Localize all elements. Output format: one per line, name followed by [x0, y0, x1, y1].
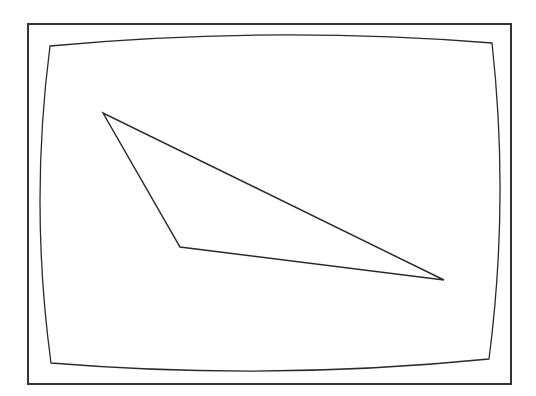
diagram-canvas	[0, 0, 536, 396]
curved-screen-outline	[40, 35, 500, 371]
triangle-shape	[103, 113, 444, 280]
diagram-svg	[0, 0, 536, 396]
outer-frame	[28, 24, 511, 384]
